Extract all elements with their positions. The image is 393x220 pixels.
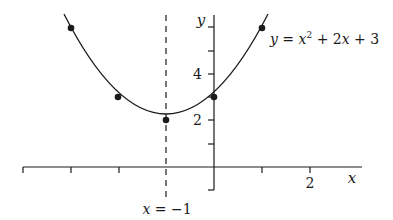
x-tick-label-2: 2 bbox=[306, 175, 315, 191]
point-0-3 bbox=[211, 94, 218, 101]
equation-label: y = x2 + 2x + 3 bbox=[269, 30, 379, 47]
eq-plus-2: + 2 bbox=[312, 31, 342, 47]
y-tick-label-4: 4 bbox=[193, 66, 202, 82]
eq-equals: = bbox=[278, 31, 299, 47]
point-1-6 bbox=[259, 25, 266, 32]
symmetry-label: x = −1 bbox=[142, 201, 191, 217]
sym-x: x bbox=[142, 201, 150, 217]
y-ticks bbox=[208, 27, 214, 190]
eq-x: x bbox=[299, 31, 307, 47]
sym-rest: = −1 bbox=[150, 201, 191, 217]
point-neg3-6 bbox=[68, 25, 75, 32]
y-axis-label: y bbox=[196, 11, 206, 29]
eq-x2: x bbox=[342, 31, 350, 47]
x-axis-label: x bbox=[348, 169, 357, 187]
point-neg2-3 bbox=[115, 94, 122, 101]
point-vertex bbox=[163, 117, 170, 124]
parabola-diagram: 2 2 4 x y y = x2 + 2x + 3 x = −1 bbox=[0, 0, 393, 220]
eq-plus-3: + 3 bbox=[350, 31, 380, 47]
y-tick-label-2: 2 bbox=[193, 112, 202, 128]
